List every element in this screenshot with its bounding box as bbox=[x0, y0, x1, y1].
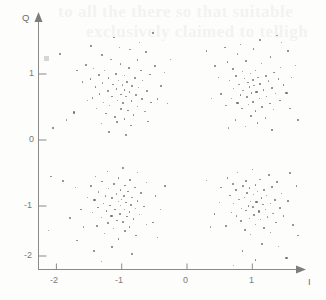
data-point bbox=[126, 81, 128, 83]
data-point bbox=[276, 35, 277, 36]
data-point bbox=[279, 100, 281, 102]
data-point bbox=[271, 186, 273, 188]
data-point bbox=[124, 89, 126, 91]
y-tick-label--2: -2 bbox=[24, 250, 32, 260]
data-point bbox=[210, 226, 211, 227]
data-point bbox=[236, 102, 238, 104]
data-point bbox=[281, 42, 282, 43]
x-axis-arrowhead bbox=[296, 266, 306, 274]
data-point bbox=[245, 60, 247, 62]
data-point bbox=[107, 222, 109, 224]
data-point bbox=[111, 246, 113, 248]
data-point bbox=[90, 45, 92, 47]
data-point bbox=[107, 90, 109, 92]
data-point bbox=[92, 97, 94, 99]
data-point bbox=[119, 213, 121, 215]
data-point bbox=[145, 51, 147, 53]
data-point bbox=[52, 127, 54, 129]
data-point bbox=[128, 67, 130, 69]
data-point bbox=[114, 209, 116, 211]
data-point bbox=[244, 229, 246, 231]
data-point bbox=[80, 209, 82, 211]
data-point bbox=[127, 110, 129, 112]
data-point bbox=[122, 84, 123, 85]
data-point bbox=[113, 183, 115, 185]
x-tick-label--2: -2 bbox=[50, 275, 58, 285]
data-point bbox=[116, 193, 117, 194]
data-point bbox=[257, 77, 258, 78]
data-point bbox=[238, 84, 239, 85]
data-point bbox=[69, 217, 71, 219]
data-point bbox=[123, 195, 125, 197]
data-point bbox=[274, 199, 276, 201]
data-point bbox=[118, 238, 120, 240]
data-point bbox=[92, 212, 93, 213]
data-point bbox=[87, 100, 88, 101]
data-point bbox=[265, 117, 266, 118]
data-point bbox=[276, 181, 278, 183]
data-point bbox=[225, 105, 226, 106]
data-point bbox=[292, 224, 294, 226]
data-point bbox=[137, 59, 139, 61]
y-axis-arrowhead bbox=[35, 12, 43, 22]
data-point bbox=[146, 224, 147, 225]
data-point bbox=[252, 101, 254, 103]
data-point bbox=[110, 59, 111, 60]
y-tick-label-0: 0 bbox=[29, 134, 34, 144]
data-point bbox=[229, 195, 231, 197]
data-point bbox=[140, 192, 142, 194]
data-point bbox=[93, 250, 95, 252]
scan-artifact-smudge bbox=[44, 56, 49, 61]
data-point bbox=[137, 200, 139, 202]
data-point bbox=[258, 210, 260, 212]
data-point bbox=[96, 225, 98, 227]
data-point bbox=[129, 49, 130, 50]
data-point bbox=[105, 195, 107, 197]
data-point bbox=[141, 98, 143, 100]
data-point bbox=[245, 180, 247, 182]
data-point bbox=[261, 106, 263, 108]
data-point bbox=[97, 207, 99, 209]
data-point bbox=[235, 119, 237, 121]
data-point bbox=[289, 108, 291, 110]
y-tick-label-1: 1 bbox=[29, 68, 34, 78]
data-point bbox=[117, 100, 118, 101]
data-point bbox=[268, 80, 269, 81]
data-point bbox=[235, 75, 237, 77]
data-point bbox=[255, 91, 257, 93]
x-tick-label--1: -1 bbox=[115, 275, 123, 285]
data-point bbox=[152, 32, 154, 34]
data-point bbox=[131, 197, 132, 198]
data-point bbox=[220, 93, 222, 95]
data-point bbox=[242, 90, 243, 91]
data-point bbox=[246, 192, 248, 194]
data-point bbox=[235, 189, 237, 191]
data-point bbox=[271, 87, 273, 89]
data-point bbox=[102, 82, 103, 83]
data-point bbox=[255, 224, 256, 225]
data-point bbox=[85, 64, 87, 66]
data-point bbox=[271, 129, 273, 131]
data-point bbox=[50, 176, 52, 178]
data-point bbox=[289, 172, 291, 174]
data-point bbox=[108, 131, 110, 133]
x-tick-label-1: 1 bbox=[249, 275, 254, 285]
x-axis-name: I bbox=[308, 276, 311, 287]
data-point bbox=[134, 77, 136, 79]
data-point bbox=[131, 253, 133, 255]
data-point bbox=[263, 227, 265, 229]
data-point bbox=[124, 230, 126, 232]
data-point bbox=[248, 205, 250, 207]
data-point bbox=[125, 134, 127, 136]
data-point bbox=[285, 92, 287, 94]
data-point bbox=[115, 73, 117, 75]
data-point bbox=[144, 111, 145, 112]
data-point bbox=[261, 243, 263, 245]
data-point bbox=[101, 123, 102, 124]
x-tick-label-0: 0 bbox=[183, 275, 188, 285]
data-point bbox=[232, 183, 234, 185]
data-point bbox=[285, 257, 287, 259]
data-point bbox=[76, 240, 78, 242]
data-point bbox=[170, 59, 171, 60]
data-point bbox=[242, 185, 243, 186]
